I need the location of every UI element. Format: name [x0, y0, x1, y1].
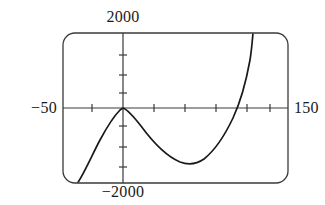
plot-area [0, 0, 325, 205]
graph-figure: 2000 −2000 −50 150 [0, 0, 325, 205]
